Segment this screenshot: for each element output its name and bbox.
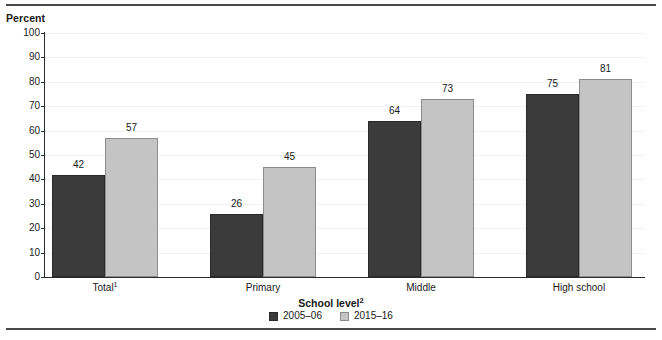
dark-gray-swatch bbox=[269, 312, 278, 321]
y-axis-tick-mark bbox=[41, 57, 45, 58]
x-axis-category-label: Primary bbox=[203, 282, 323, 293]
y-axis-tick-label: 0 bbox=[4, 272, 40, 282]
category-label-footnote: 1 bbox=[114, 281, 118, 288]
bar-series2 bbox=[105, 138, 158, 277]
bar-value-label: 45 bbox=[263, 152, 316, 162]
chart-legend: 2005–062015–16 bbox=[0, 311, 662, 321]
y-axis-tick-mark bbox=[41, 179, 45, 180]
top-divider-rule bbox=[6, 4, 656, 6]
x-axis-line bbox=[44, 277, 645, 278]
x-axis-category-label: High school bbox=[519, 282, 639, 293]
y-axis-tick-label: 80 bbox=[4, 77, 40, 87]
y-axis-tick-label: 100 bbox=[4, 28, 40, 38]
legend-item: 2015–16 bbox=[340, 311, 393, 321]
bar-series1 bbox=[368, 121, 421, 277]
y-axis-tick-label: 20 bbox=[4, 223, 40, 233]
bar-value-label: 73 bbox=[421, 84, 474, 94]
bar-series2 bbox=[421, 99, 474, 277]
y-axis-title: Percent bbox=[6, 12, 45, 24]
bar-value-label: 42 bbox=[52, 160, 105, 170]
y-axis-tick-label: 30 bbox=[4, 199, 40, 209]
y-axis-tick-label: 70 bbox=[4, 101, 40, 111]
category-label-text: High school bbox=[553, 282, 605, 293]
bar-value-label: 75 bbox=[526, 79, 579, 89]
y-axis-tick-mark bbox=[41, 155, 45, 156]
bar-series1 bbox=[52, 175, 105, 277]
gridline bbox=[45, 33, 645, 34]
bar-value-label: 57 bbox=[105, 123, 158, 133]
legend-item: 2005–06 bbox=[269, 311, 322, 321]
y-axis-tick-label: 50 bbox=[4, 150, 40, 160]
bar-value-label: 26 bbox=[210, 199, 263, 209]
category-label-text: Primary bbox=[246, 282, 280, 293]
x-axis-title-text: School level bbox=[298, 297, 359, 309]
category-label-text: Middle bbox=[406, 282, 435, 293]
y-axis-tick-mark bbox=[41, 131, 45, 132]
y-axis-tick-label: 10 bbox=[4, 248, 40, 258]
bar-series2 bbox=[579, 79, 632, 277]
chart-figure: Percent 0102030405060708090100 425726456… bbox=[0, 0, 662, 340]
y-axis-tick-labels: 0102030405060708090100 bbox=[0, 33, 40, 277]
y-axis-tick-mark bbox=[41, 204, 45, 205]
bottom-divider-rule bbox=[6, 328, 656, 330]
y-axis-tick-mark bbox=[41, 253, 45, 254]
y-axis-tick-mark bbox=[41, 106, 45, 107]
bar-value-label: 81 bbox=[579, 64, 632, 74]
x-axis-title-footnote: 2 bbox=[360, 296, 364, 305]
light-gray-swatch bbox=[340, 312, 349, 321]
legend-item-label: 2015–16 bbox=[354, 311, 393, 321]
y-axis-tick-mark bbox=[41, 33, 45, 34]
y-axis-tick-label: 90 bbox=[4, 52, 40, 62]
y-axis-tick-mark bbox=[41, 228, 45, 229]
legend-item-label: 2005–06 bbox=[283, 311, 322, 321]
x-axis-category-label: Total1 bbox=[45, 282, 165, 293]
x-axis-category-label: Middle bbox=[361, 282, 481, 293]
y-axis-tick-label: 40 bbox=[4, 174, 40, 184]
y-axis-tick-label: 60 bbox=[4, 126, 40, 136]
bar-value-label: 64 bbox=[368, 106, 421, 116]
y-axis-tick-mark bbox=[41, 82, 45, 83]
x-axis-title: School level2 bbox=[0, 297, 662, 309]
gridline bbox=[45, 57, 645, 58]
bar-series1 bbox=[210, 214, 263, 277]
plot-area: 4257264564737581 bbox=[45, 33, 645, 277]
bar-series1 bbox=[526, 94, 579, 277]
y-axis-tick-mark bbox=[41, 277, 45, 278]
bar-series2 bbox=[263, 167, 316, 277]
category-label-text: Total bbox=[92, 282, 113, 293]
